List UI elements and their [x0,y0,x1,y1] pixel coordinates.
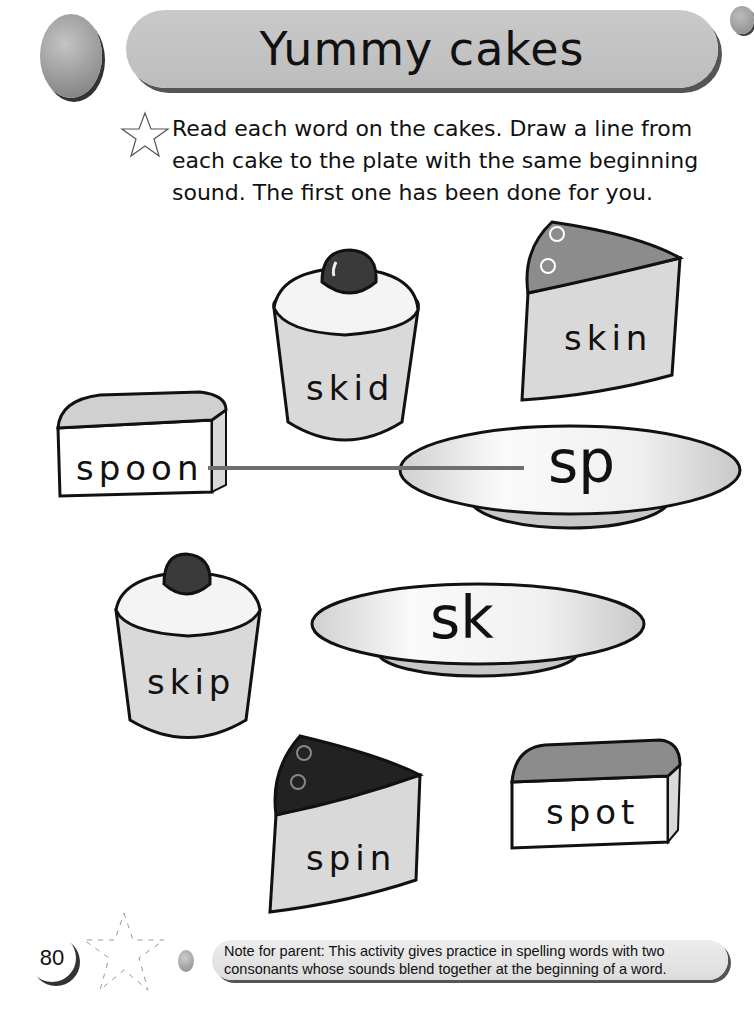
page-number-badge: 80 [28,934,76,982]
cake-skin[interactable] [522,222,680,400]
cake-skid[interactable] [274,250,419,440]
cake-word-spoon: spoon [76,448,203,488]
parent-note-banner: Note for parent: This activity gives pra… [212,940,728,980]
cake-word-skip: skip [147,662,235,702]
cake-word-skid: skid [306,368,394,408]
dashed-star-icon [80,910,168,995]
plate-label-sp: sp [548,428,615,496]
cake-word-spin: spin [306,838,396,878]
cake-spin[interactable] [270,736,420,912]
page-number: 80 [40,945,64,971]
cake-word-skin: skin [564,318,652,358]
cake-word-spot: spot [546,792,639,832]
plate-label-sk: sk [430,584,494,652]
footer-ball-decoration [178,950,194,972]
parent-note-text: Note for parent: This activity gives pra… [224,942,716,978]
cake-skip[interactable] [116,554,260,738]
